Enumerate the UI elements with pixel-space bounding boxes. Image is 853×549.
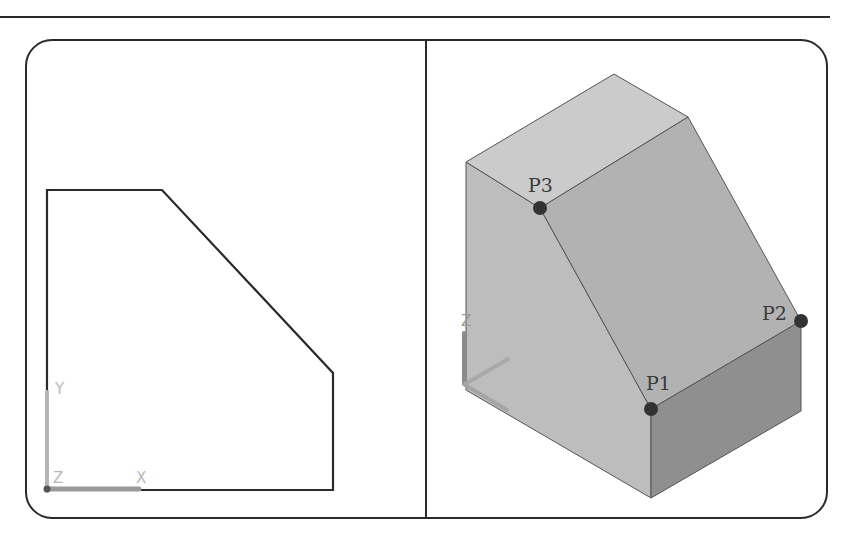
- solid-3d[interactable]: [466, 74, 801, 498]
- point-label-p2: P2: [762, 302, 787, 324]
- ucs-icon-2d: Y Z X: [44, 380, 147, 493]
- ucs-x-label: X: [507, 391, 517, 409]
- point-marker-p2[interactable]: [794, 314, 808, 328]
- point-marker-p1[interactable]: [644, 402, 658, 416]
- drawing-canvas: Y Z X Z X P3 P2: [0, 0, 853, 549]
- ucs-z-label: Z: [53, 469, 63, 487]
- ucs-z-label: Z: [461, 312, 471, 330]
- left-viewport[interactable]: Y Z X: [44, 190, 334, 493]
- point-marker-p3[interactable]: [533, 201, 547, 215]
- ucs-y-label: Y: [54, 380, 65, 398]
- ucs-x-label: X: [136, 469, 146, 487]
- right-viewport[interactable]: Z X P3 P2 P1: [461, 74, 808, 498]
- profile-polygon[interactable]: [47, 190, 333, 490]
- point-label-p1: P1: [646, 372, 671, 394]
- point-label-p3: P3: [528, 174, 553, 196]
- ucs-origin: [44, 486, 51, 493]
